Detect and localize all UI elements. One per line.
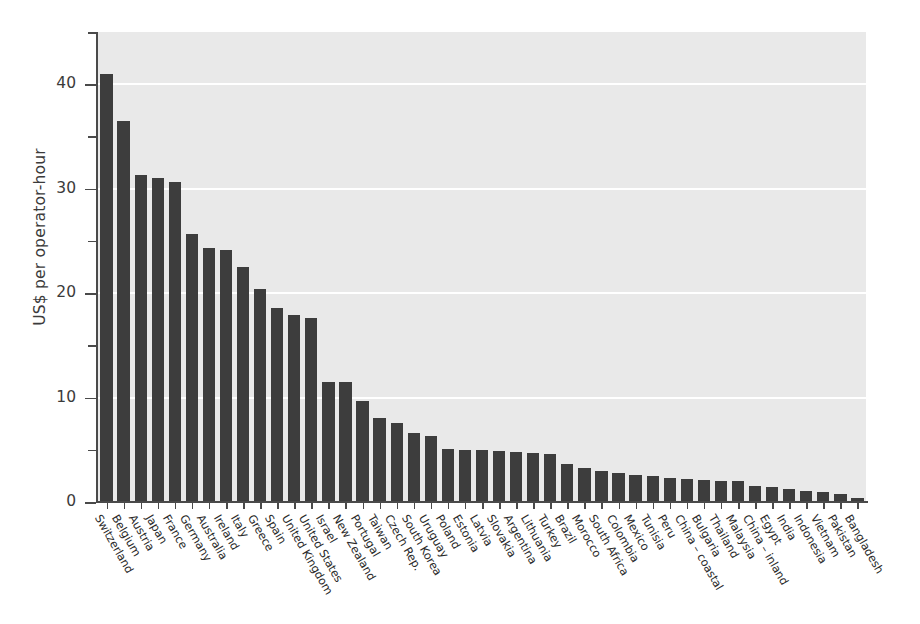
y-tick-minor — [88, 345, 96, 347]
bar — [356, 401, 368, 502]
x-tick — [414, 503, 416, 509]
bar-chart: US$ per operator-hour 010203040 Switzerl… — [0, 0, 920, 624]
x-tick — [516, 503, 518, 509]
bar — [493, 451, 505, 502]
x-tick — [533, 503, 535, 509]
y-tick-major — [85, 293, 96, 295]
x-tick — [653, 503, 655, 509]
bar — [749, 486, 761, 502]
x-tick — [431, 503, 433, 509]
bar — [732, 481, 744, 502]
x-tick — [823, 503, 825, 509]
bar — [152, 178, 164, 502]
x-tick — [328, 503, 330, 509]
x-tick — [687, 503, 689, 509]
bar — [373, 418, 385, 502]
bar — [442, 449, 454, 502]
y-tick-label: 10 — [36, 388, 76, 406]
x-tick — [567, 503, 569, 509]
bar — [715, 481, 727, 502]
x-tick — [584, 503, 586, 509]
x-tick — [704, 503, 706, 509]
x-tick — [243, 503, 245, 509]
gridline — [98, 83, 866, 85]
y-axis-line — [96, 32, 98, 502]
y-tick-label: 20 — [36, 283, 76, 301]
x-tick — [124, 503, 126, 509]
y-tick-major — [85, 189, 96, 191]
bar — [169, 182, 181, 502]
x-tick — [601, 503, 603, 509]
bar — [408, 433, 420, 502]
y-tick-major — [85, 398, 96, 400]
x-tick — [465, 503, 467, 509]
x-tick — [772, 503, 774, 509]
x-tick — [158, 503, 160, 509]
y-tick-minor — [88, 241, 96, 243]
bar — [647, 476, 659, 502]
bar — [391, 423, 403, 502]
plot-area — [98, 32, 866, 502]
bar — [629, 475, 641, 502]
x-tick — [175, 503, 177, 509]
bar — [220, 250, 232, 502]
y-tick-label: 30 — [36, 179, 76, 197]
x-tick — [345, 503, 347, 509]
bar — [425, 436, 437, 502]
bar — [510, 452, 522, 502]
bar — [664, 478, 676, 502]
x-tick — [857, 503, 859, 509]
y-tick-minor — [88, 450, 96, 452]
x-tick — [448, 503, 450, 509]
x-tick — [840, 503, 842, 509]
bar — [100, 74, 112, 502]
x-tick — [721, 503, 723, 509]
y-tick-major — [85, 502, 96, 504]
bar — [578, 468, 590, 502]
y-tick-minor — [88, 32, 96, 34]
x-tick — [755, 503, 757, 509]
x-tick — [789, 503, 791, 509]
x-tick — [550, 503, 552, 509]
bar — [339, 382, 351, 502]
x-tick — [636, 503, 638, 509]
bar — [612, 473, 624, 502]
x-tick — [192, 503, 194, 509]
x-tick — [619, 503, 621, 509]
bar — [288, 315, 300, 502]
bar — [476, 450, 488, 502]
x-tick — [260, 503, 262, 509]
bar — [595, 471, 607, 502]
bar — [254, 289, 266, 502]
bar — [322, 382, 334, 502]
y-tick-label: 40 — [36, 74, 76, 92]
bar — [305, 318, 317, 502]
bar — [561, 464, 573, 502]
bar — [117, 121, 129, 502]
x-tick — [141, 503, 143, 509]
x-tick — [277, 503, 279, 509]
y-axis-title: US$ per operator-hour — [31, 107, 57, 367]
y-tick-minor — [88, 136, 96, 138]
bar — [544, 454, 556, 502]
x-tick — [311, 503, 313, 509]
x-tick — [397, 503, 399, 509]
bar — [135, 175, 147, 502]
x-tick — [107, 503, 109, 509]
bar — [237, 267, 249, 502]
x-tick — [670, 503, 672, 509]
y-tick-major — [85, 84, 96, 86]
x-tick — [482, 503, 484, 509]
x-tick — [738, 503, 740, 509]
x-tick — [380, 503, 382, 509]
x-tick — [363, 503, 365, 509]
bar — [271, 308, 283, 502]
bar — [203, 248, 215, 502]
x-tick — [806, 503, 808, 509]
x-tick — [209, 503, 211, 509]
bar — [681, 479, 693, 502]
x-tick — [226, 503, 228, 509]
bar — [527, 453, 539, 502]
x-tick — [294, 503, 296, 509]
y-tick-label: 0 — [36, 492, 76, 510]
